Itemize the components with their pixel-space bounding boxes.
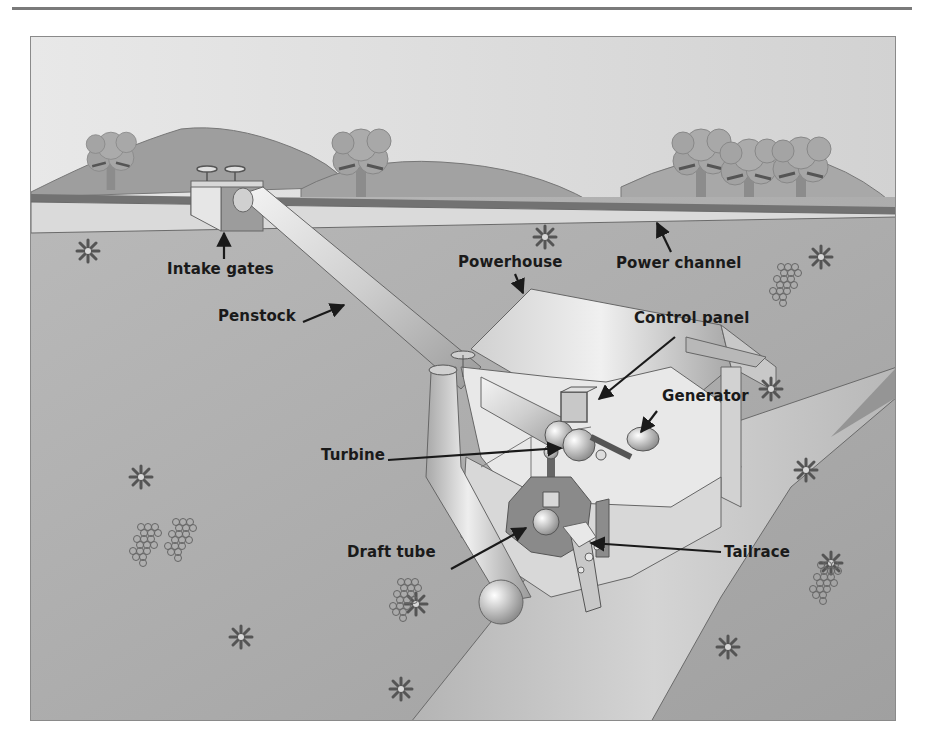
top-rule bbox=[12, 7, 912, 10]
label-intake-gates: Intake gates bbox=[167, 260, 274, 278]
diagram-illustration bbox=[31, 37, 896, 721]
hydroelectric-diagram: Intake gates Power channel Powerhouse Pe… bbox=[30, 36, 896, 721]
label-power-channel: Power channel bbox=[616, 254, 742, 272]
label-draft-tube: Draft tube bbox=[347, 543, 436, 561]
label-turbine: Turbine bbox=[321, 446, 385, 464]
label-tailrace: Tailrace bbox=[724, 543, 790, 561]
label-control-panel: Control panel bbox=[634, 309, 749, 327]
label-generator: Generator bbox=[662, 387, 749, 405]
label-powerhouse: Powerhouse bbox=[458, 253, 563, 271]
label-penstock: Penstock bbox=[218, 307, 296, 325]
